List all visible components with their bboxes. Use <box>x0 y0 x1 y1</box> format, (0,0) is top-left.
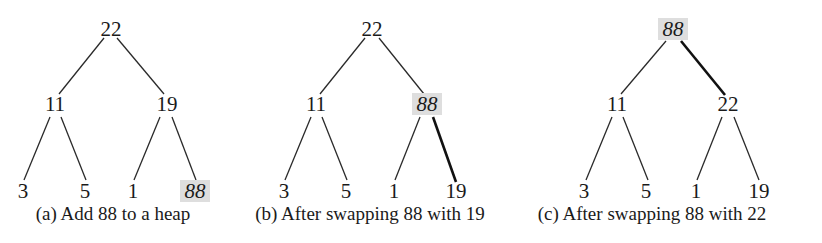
tree-edge <box>623 117 648 180</box>
heap-node: 11 <box>607 92 627 116</box>
heap-node: 19 <box>446 179 467 203</box>
tree-edge <box>586 117 612 180</box>
node-value: 22 <box>362 17 383 41</box>
heap-node: 19 <box>157 92 178 116</box>
node-value: 5 <box>80 179 91 203</box>
tree-edge <box>172 117 196 180</box>
panel-caption: (a) Add 88 to a heap <box>36 203 191 225</box>
heap-node: 22 <box>101 17 122 41</box>
heap-node: 5 <box>641 179 652 203</box>
panel-c: 88112235119(c) After swapping 88 with 22 <box>538 17 770 225</box>
node-value: 3 <box>18 179 29 203</box>
node-value: 3 <box>279 179 290 203</box>
node-value: 19 <box>749 179 770 203</box>
heap-node-highlighted: 88 <box>412 92 442 116</box>
panel-caption: (b) After swapping 88 with 19 <box>255 203 485 225</box>
tree-edge <box>621 41 666 94</box>
tree-edge <box>134 117 160 180</box>
heap-node: 3 <box>579 179 590 203</box>
node-value: 19 <box>157 92 178 116</box>
panel-b: 22118835119(b) After swapping 88 with 19 <box>255 17 485 225</box>
heap-node: 22 <box>718 92 739 116</box>
tree-edge <box>24 117 50 180</box>
diagram-panels: 22111935188(a) Add 88 to a heap221188351… <box>18 17 770 225</box>
heap-node: 11 <box>45 92 65 116</box>
swap-path-edge <box>681 41 725 95</box>
heap-node: 1 <box>128 179 139 203</box>
tree-edge <box>117 38 164 94</box>
node-value: 19 <box>446 179 467 203</box>
node-value: 3 <box>579 179 590 203</box>
heap-node: 5 <box>80 179 91 203</box>
node-value: 1 <box>128 179 139 203</box>
swap-path-edge <box>433 117 456 182</box>
tree-edge <box>285 117 311 180</box>
heap-node: 3 <box>18 179 29 203</box>
tree-edge <box>59 38 104 94</box>
node-value: 88 <box>417 92 439 116</box>
tree-edge <box>697 117 722 180</box>
heap-node: 22 <box>362 17 383 41</box>
heap-node: 1 <box>389 179 400 203</box>
tree-edge <box>61 117 86 180</box>
heap-node: 19 <box>749 179 770 203</box>
heap-node: 5 <box>341 179 352 203</box>
node-value: 88 <box>663 17 685 41</box>
tree-edge <box>395 117 420 180</box>
node-value: 11 <box>306 92 326 116</box>
heap-node: 3 <box>279 179 290 203</box>
heap-node-highlighted: 88 <box>658 17 688 41</box>
node-value: 1 <box>691 179 702 203</box>
tree-edge <box>379 38 424 94</box>
tree-edge <box>322 117 347 180</box>
node-value: 88 <box>185 179 207 203</box>
node-value: 22 <box>718 92 739 116</box>
heap-node: 1 <box>691 179 702 203</box>
heap-insertion-diagram: 22111935188(a) Add 88 to a heap221188351… <box>0 0 822 243</box>
node-value: 1 <box>389 179 400 203</box>
node-value: 5 <box>641 179 652 203</box>
heap-node: 11 <box>306 92 326 116</box>
panel-caption: (c) After swapping 88 with 22 <box>538 203 766 225</box>
node-value: 11 <box>607 92 627 116</box>
tree-edge <box>734 117 759 180</box>
node-value: 22 <box>101 17 122 41</box>
panel-a: 22111935188(a) Add 88 to a heap <box>18 17 210 225</box>
node-value: 5 <box>341 179 352 203</box>
tree-edge <box>320 38 365 94</box>
node-value: 11 <box>45 92 65 116</box>
heap-node-highlighted: 88 <box>180 179 210 203</box>
